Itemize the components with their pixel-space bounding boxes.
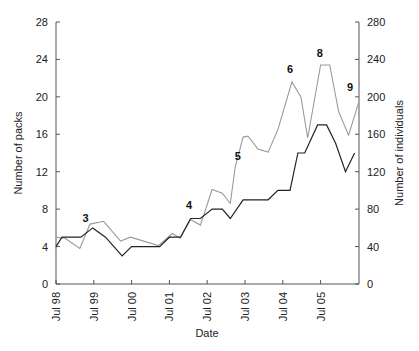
y-tick-label-right: 40	[367, 241, 379, 253]
y-tick-label-right: 160	[367, 128, 385, 140]
y-tick-label-left: 0	[42, 278, 48, 290]
x-tick-label: Jul 05	[315, 292, 327, 321]
x-axis-title: Date	[195, 327, 218, 339]
annotation-label: 3	[82, 212, 88, 224]
packs-line	[56, 125, 355, 256]
x-tick-label: Jul 01	[163, 292, 175, 321]
y-tick-label-left: 20	[36, 91, 48, 103]
y-tick-label-right: 120	[367, 166, 385, 178]
x-tick-label: Jul 00	[126, 292, 138, 321]
y-axis-title-left: Number of packs	[12, 111, 24, 195]
x-tick-label: Jul 04	[277, 292, 289, 321]
x-tick-label: Jul 99	[88, 292, 100, 321]
annotation-label: 4	[186, 199, 193, 211]
annotation-label: 9	[347, 81, 353, 93]
y-tick-label-left: 12	[36, 166, 48, 178]
y-tick-label-right: 200	[367, 91, 385, 103]
annotation-label: 6	[287, 63, 293, 75]
y-axis-title-right: Number of individuals	[393, 100, 405, 206]
individuals-line	[56, 65, 358, 248]
y-tick-label-right: 240	[367, 53, 385, 65]
y-tick-label-right: 0	[367, 278, 373, 290]
chart: 048121620242804080120160200240280Jul 98J…	[0, 0, 419, 351]
axes: 048121620242804080120160200240280Jul 98J…	[36, 16, 386, 321]
y-tick-label-left: 24	[36, 53, 48, 65]
x-tick-label: Jul 02	[201, 292, 213, 321]
y-tick-label-left: 28	[36, 16, 48, 28]
x-tick-label: Jul 98	[50, 292, 62, 321]
y-tick-label-left: 16	[36, 128, 48, 140]
x-tick-label: Jul 03	[239, 292, 251, 321]
y-tick-label-right: 80	[367, 203, 379, 215]
y-tick-label-left: 8	[42, 203, 48, 215]
data-series	[56, 65, 358, 256]
annotation-label: 5	[235, 150, 241, 162]
y-tick-label-right: 280	[367, 16, 385, 28]
y-tick-label-left: 4	[42, 241, 48, 253]
annotation-label: 8	[317, 47, 323, 59]
